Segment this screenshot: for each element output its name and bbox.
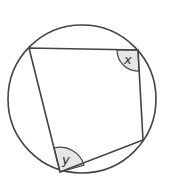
diagram: x y — [0, 0, 174, 190]
angle-y-label: y — [61, 152, 70, 167]
angle-x-label: x — [123, 52, 132, 67]
circumcircle — [8, 25, 156, 173]
